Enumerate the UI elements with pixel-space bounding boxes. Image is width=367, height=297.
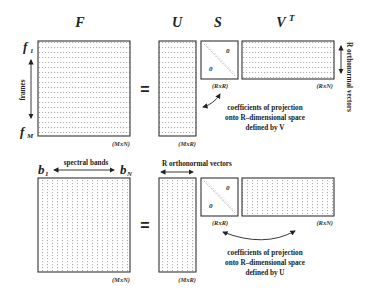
svg-text:V: V xyxy=(276,15,287,30)
top-decomposition: F U S V T (MxN) f 1 f M frames = xyxy=(19,13,353,148)
annotation-line-1: coefficients of projection xyxy=(227,104,302,112)
curved-double-arrow-icon xyxy=(223,231,295,240)
annotation-line-2: onto R–dimensional space xyxy=(225,114,305,122)
annotation-line-3: defined by V xyxy=(245,124,285,132)
matrix-s-top xyxy=(201,41,238,79)
equals-sign-bottom: = xyxy=(140,217,149,234)
svg-text:1: 1 xyxy=(30,47,34,55)
svg-text:f: f xyxy=(23,39,29,54)
matrix-u-title: U xyxy=(172,15,183,30)
matrix-u-dim: (MxR) xyxy=(178,140,196,148)
frames-label: frames xyxy=(19,79,27,100)
matrix-vt-top xyxy=(242,41,334,79)
svg-text:f: f xyxy=(20,124,26,139)
row-last-label: f M xyxy=(20,124,34,140)
svg-text:M: M xyxy=(26,132,34,140)
bottom-decomposition: b 1 b N spectral bands (MxN) = R orthono… xyxy=(38,159,334,284)
matrix-s-dim: (RxR) xyxy=(212,82,228,90)
col-last-label: b N xyxy=(120,162,133,178)
svg-text:N: N xyxy=(126,170,133,178)
orthonormal-top-label: R orthonormal vectors xyxy=(162,160,232,168)
matrix-f-bottom xyxy=(38,178,130,272)
matrix-s-bottom-dim: (RxR) xyxy=(212,219,228,227)
matrix-s-bottom xyxy=(201,178,238,216)
svd-diagram: F U S V T (MxN) f 1 f M frames = xyxy=(0,0,367,297)
svg-text:T: T xyxy=(289,13,295,23)
svg-text:1: 1 xyxy=(45,170,49,178)
matrix-f-top xyxy=(38,41,130,136)
matrix-s-title: S xyxy=(214,15,222,30)
matrix-vt-bottom xyxy=(242,178,334,216)
bottom-annotation-line-3: defined by U xyxy=(245,269,285,277)
matrix-vt-dim: (RxN) xyxy=(316,82,333,90)
s-zero-upper: 0 xyxy=(226,47,230,55)
s-zero-lower: 0 xyxy=(209,65,213,73)
equals-sign-top: = xyxy=(140,81,149,98)
row-first-label: f 1 xyxy=(23,39,34,55)
bottom-annotation-line-1: coefficients of projection xyxy=(227,249,302,257)
s-bottom-zero-lower: 0 xyxy=(209,202,213,210)
s-bottom-zero-upper: 0 xyxy=(226,184,230,192)
matrix-vt-bottom-dim: (RxN) xyxy=(316,219,333,227)
matrix-f-dim: (MxN) xyxy=(112,140,130,148)
matrix-u-bottom xyxy=(159,178,196,272)
svg-text:b: b xyxy=(38,162,45,177)
orthonormal-side-label: R orthonormal vectors xyxy=(345,42,353,112)
curved-arrow-icon xyxy=(203,94,220,107)
matrix-u-top xyxy=(159,41,196,136)
spectral-bands-label: spectral bands xyxy=(64,159,109,167)
matrix-u-bottom-dim: (MxR) xyxy=(178,276,196,284)
matrix-vt-title: V T xyxy=(276,13,295,30)
matrix-f-title: F xyxy=(74,15,85,30)
col-first-label: b 1 xyxy=(38,162,49,178)
svg-text:b: b xyxy=(120,162,127,177)
bottom-annotation-line-2: onto R–dimensional space xyxy=(225,259,305,267)
matrix-f-bottom-dim: (MxN) xyxy=(112,276,130,284)
